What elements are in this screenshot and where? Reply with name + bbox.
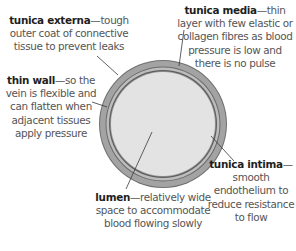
term-thin-wall: thin wall (7, 74, 55, 86)
label-tunica-externa: tunica externa—tough outer coat of conne… (6, 14, 132, 54)
label-thin-wall: thin wall—so the vein is flexible and ca… (2, 74, 100, 140)
label-tunica-media: tunica media—thin layer with few elastic… (174, 4, 296, 70)
label-lumen: lumen—relatively wide space to accommoda… (94, 191, 212, 231)
lumen-area (111, 72, 215, 176)
term-tunica-externa: tunica externa (9, 14, 90, 26)
term-tunica-intima: tunica intima (209, 158, 283, 170)
term-lumen: lumen (95, 191, 130, 203)
term-tunica-media: tunica media (184, 4, 256, 16)
label-tunica-intima: tunica intima—smooth endothelium to redu… (207, 158, 295, 224)
leader-line-tunica-externa (97, 56, 118, 75)
vein-cross-section-diagram: tunica externa—tough outer coat of conne… (0, 0, 296, 251)
